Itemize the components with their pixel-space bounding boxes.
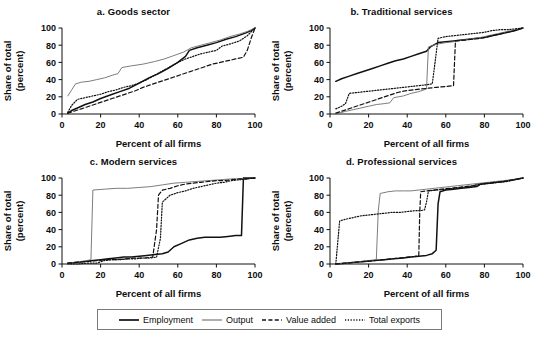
- y-tick-label: 0: [51, 109, 56, 119]
- y-axis-title-line1: Share of total: [2, 41, 13, 102]
- x-tick-label: 60: [441, 270, 451, 280]
- y-axis-title-line1: Share of total: [270, 191, 281, 252]
- y-axis-title: Share of total(percent): [270, 41, 293, 102]
- legend-item-total-exports: Total exports: [345, 315, 420, 325]
- y-tick-label: 20: [46, 242, 56, 252]
- series-line-employment: [336, 28, 523, 81]
- panel-goods-sector: a. Goods sector 020406080100020406080100…: [0, 0, 267, 150]
- panel-modern-services: c. Modern services 020406080100020406080…: [0, 150, 267, 300]
- legend-swatch-solid-thin-icon: [202, 316, 222, 324]
- x-tick-label: 80: [479, 120, 489, 130]
- x-tick-label: 100: [247, 270, 262, 280]
- y-axis-title-line2: (percent): [282, 51, 293, 92]
- legend-label: Output: [226, 315, 253, 325]
- y-tick-label: 0: [319, 109, 324, 119]
- y-tick-label: 0: [51, 259, 56, 269]
- panel-b-plot: 020406080100020406080100Share of total(p…: [268, 20, 535, 150]
- panel-professional-services: d. Professional services 020406080100020…: [268, 150, 535, 300]
- panel-c-title: c. Modern services: [0, 156, 267, 167]
- y-tick-label: 80: [314, 191, 324, 201]
- x-tick-label: 0: [59, 120, 64, 130]
- x-tick-label: 0: [327, 120, 332, 130]
- x-tick-label: 80: [211, 270, 221, 280]
- y-axis-title: Share of total(percent): [270, 191, 293, 252]
- y-axis-title-line1: Share of total: [270, 41, 281, 102]
- y-tick-label: 40: [46, 75, 56, 85]
- x-tick-label: 20: [364, 120, 374, 130]
- y-axis-title-line2: (percent): [14, 201, 25, 242]
- y-axis-title-line2: (percent): [14, 51, 25, 92]
- y-tick-label: 80: [46, 191, 56, 201]
- x-axis-title: Percent of all firms: [116, 138, 202, 149]
- panel-d-plot: 020406080100020406080100Share of total(p…: [268, 170, 535, 300]
- y-axis-title: Share of total(percent): [2, 191, 25, 252]
- panel-d-title: d. Professional services: [268, 156, 535, 167]
- y-tick-label: 60: [46, 208, 56, 218]
- legend-swatch-dashed-icon: [262, 316, 282, 324]
- legend-swatch-dotted-icon: [345, 316, 365, 324]
- x-tick-label: 20: [96, 120, 106, 130]
- lorenz-curve-figure: a. Goods sector 020406080100020406080100…: [0, 0, 535, 339]
- y-tick-label: 100: [41, 23, 56, 33]
- series-line-total-exports: [68, 28, 255, 112]
- y-tick-label: 0: [319, 259, 324, 269]
- x-tick-label: 40: [402, 270, 412, 280]
- y-tick-label: 100: [41, 173, 56, 183]
- x-tick-label: 40: [402, 120, 412, 130]
- x-tick-label: 80: [479, 270, 489, 280]
- y-tick-label: 20: [314, 92, 324, 102]
- y-axis-title: Share of total(percent): [2, 41, 25, 102]
- y-tick-label: 40: [46, 225, 56, 235]
- y-tick-label: 60: [314, 58, 324, 68]
- series-line-total-exports: [68, 178, 255, 264]
- x-tick-label: 60: [173, 270, 183, 280]
- y-axis-title-line1: Share of total: [2, 191, 13, 252]
- y-tick-label: 20: [314, 242, 324, 252]
- y-tick-label: 80: [46, 41, 56, 51]
- legend-item-employment: Employment: [119, 315, 193, 325]
- y-tick-label: 40: [314, 225, 324, 235]
- x-axis-title: Percent of all firms: [384, 138, 470, 149]
- legend-label: Value added: [286, 315, 336, 325]
- x-tick-label: 0: [327, 270, 332, 280]
- panel-b-title: b. Traditional services: [268, 6, 535, 17]
- legend-swatch-solid-thick-icon: [119, 316, 139, 324]
- y-tick-label: 60: [46, 58, 56, 68]
- y-tick-label: 100: [309, 23, 324, 33]
- x-tick-label: 20: [364, 270, 374, 280]
- series-line-total-exports: [336, 178, 523, 264]
- x-tick-label: 100: [515, 120, 530, 130]
- x-axis-title: Percent of all firms: [384, 288, 470, 299]
- x-tick-label: 60: [173, 120, 183, 130]
- y-tick-label: 80: [314, 41, 324, 51]
- panel-c-plot: 020406080100020406080100Share of total(p…: [0, 170, 267, 300]
- panel-traditional-services: b. Traditional services 0204060801000204…: [268, 0, 535, 150]
- y-tick-label: 20: [46, 92, 56, 102]
- x-tick-label: 20: [96, 270, 106, 280]
- series-line-employment: [68, 28, 255, 113]
- x-tick-label: 100: [247, 120, 262, 130]
- x-tick-label: 40: [134, 270, 144, 280]
- x-axis-title: Percent of all firms: [116, 288, 202, 299]
- legend-label: Total exports: [369, 315, 420, 325]
- x-tick-label: 60: [441, 120, 451, 130]
- panel-a-plot: 020406080100020406080100Share of total(p…: [0, 20, 267, 150]
- x-tick-label: 80: [211, 120, 221, 130]
- y-tick-label: 60: [314, 208, 324, 218]
- y-axis-title-line2: (percent): [282, 201, 293, 242]
- legend-label: Employment: [143, 315, 193, 325]
- y-tick-label: 100: [309, 173, 324, 183]
- x-tick-label: 0: [59, 270, 64, 280]
- legend-item-output: Output: [202, 315, 253, 325]
- legend-item-value-added: Value added: [262, 315, 336, 325]
- series-line-total-exports: [336, 28, 523, 109]
- y-tick-label: 40: [314, 75, 324, 85]
- chart-legend: EmploymentOutputValue addedTotal exports: [97, 309, 442, 330]
- x-tick-label: 40: [134, 120, 144, 130]
- panel-a-title: a. Goods sector: [0, 6, 267, 17]
- x-tick-label: 100: [515, 270, 530, 280]
